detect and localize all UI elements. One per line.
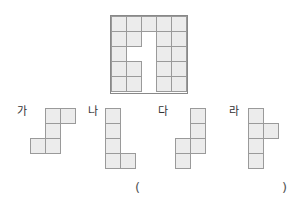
piece-cell	[120, 153, 136, 169]
option-label-ra: 라	[229, 106, 239, 118]
piece-cell	[105, 108, 121, 124]
board-cell	[156, 31, 172, 47]
board-cell	[126, 16, 142, 32]
board-cell	[141, 16, 157, 32]
board-cell	[111, 76, 127, 92]
piece-cell	[105, 138, 121, 154]
piece-cell	[105, 123, 121, 139]
board-cell	[126, 61, 142, 77]
board-cell	[156, 46, 172, 62]
piece-cell	[60, 108, 76, 124]
board-cell	[156, 76, 172, 92]
board-cell	[171, 61, 187, 77]
piece-cell	[248, 108, 264, 124]
board-cell	[156, 16, 172, 32]
board-cell	[126, 76, 142, 92]
piece-cell	[175, 138, 191, 154]
piece-cell	[45, 138, 61, 154]
piece-cell	[45, 108, 61, 124]
option-label-na: 나	[88, 106, 98, 118]
board-cell	[156, 61, 172, 77]
piece-cell	[248, 138, 264, 154]
piece-cell	[190, 108, 206, 124]
answer-close-paren: )	[282, 180, 287, 195]
piece-cell	[190, 123, 206, 139]
board-cell	[111, 61, 127, 77]
board-cell	[171, 76, 187, 92]
option-label-da: 다	[158, 106, 168, 118]
piece-cell	[248, 123, 264, 139]
board-cell	[111, 16, 127, 32]
piece-cell	[190, 138, 206, 154]
piece-cell	[45, 123, 61, 139]
answer-blank[interactable]	[146, 180, 280, 198]
board-cell	[111, 31, 127, 47]
piece-cell	[30, 138, 46, 154]
piece-cell	[105, 153, 121, 169]
board-cell	[171, 46, 187, 62]
answer-open-paren: (	[135, 180, 140, 195]
board-cell	[171, 31, 187, 47]
puzzle-board	[110, 15, 188, 94]
piece-cell	[263, 123, 279, 139]
option-label-ga: 가	[17, 106, 27, 118]
board-cell	[111, 46, 127, 62]
board-cell	[126, 31, 142, 47]
piece-cell	[175, 153, 191, 169]
piece-cell	[248, 153, 264, 169]
board-cell	[171, 16, 187, 32]
